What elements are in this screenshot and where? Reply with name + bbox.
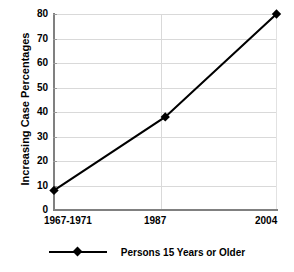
gridline-20 <box>53 161 277 162</box>
x-tick-label-1967-1971: 1967-1971 <box>44 215 92 226</box>
y-tick-mark-10 <box>53 186 57 187</box>
line-chart: Increasing Case Percentages 80 70 60 50 … <box>0 0 294 272</box>
chart-legend: Persons 15 Years or Older <box>0 246 294 258</box>
y-tick-label-0: 0 <box>24 205 48 215</box>
gridline-10 <box>53 186 277 187</box>
plot-area <box>53 14 277 210</box>
legend-entry: Persons 15 Years or Older <box>49 246 245 258</box>
gridline-50 <box>53 88 277 89</box>
legend-label: Persons 15 Years or Older <box>121 247 245 258</box>
x-tick-label-1987: 1987 <box>144 215 166 226</box>
y-tick-label-80: 80 <box>24 9 48 19</box>
y-tick-label-10: 10 <box>24 181 48 191</box>
y-tick-label-30: 30 <box>24 132 48 142</box>
y-tick-mark-30 <box>53 137 57 138</box>
y-tick-mark-70 <box>53 39 57 40</box>
y-tick-label-40: 40 <box>24 107 48 117</box>
plot-right-edge <box>276 14 277 210</box>
legend-line-marker-icon <box>49 246 107 258</box>
gridline-30 <box>53 137 277 138</box>
y-tick-label-20: 20 <box>24 156 48 166</box>
x-axis-line <box>53 209 278 211</box>
y-tick-mark-80 <box>53 14 57 15</box>
gridline-80 <box>53 14 277 15</box>
y-tick-label-70: 70 <box>24 34 48 44</box>
y-tick-label-60: 60 <box>24 58 48 68</box>
y-tick-mark-40 <box>53 112 57 113</box>
y-tick-mark-20 <box>53 161 57 162</box>
gridline-70 <box>53 39 277 40</box>
gridline-60 <box>53 63 277 64</box>
y-tick-mark-60 <box>53 63 57 64</box>
y-axis-ticks: 80 70 60 50 40 30 20 10 0 <box>20 0 48 272</box>
y-tick-label-50: 50 <box>24 83 48 93</box>
x-tick-label-2004: 2004 <box>255 215 277 226</box>
y-tick-mark-50 <box>53 88 57 89</box>
gridline-40 <box>53 112 277 113</box>
gridline-1987 <box>161 14 162 210</box>
